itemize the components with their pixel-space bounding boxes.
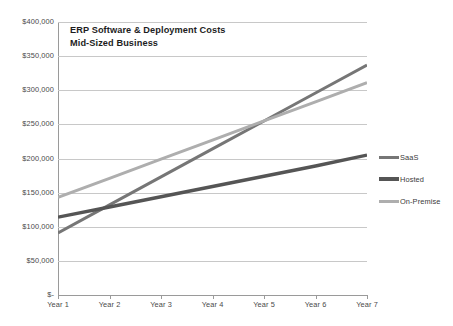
legend-item-hosted[interactable]: Hosted [379,168,453,190]
x-axis-tick [264,295,265,299]
y-axis-tick-label: $250,000 [0,119,54,128]
x-axis-tick-label: Year 2 [99,300,121,309]
y-axis-tick-label: $400,000 [0,17,54,26]
y-axis-tick-label: $50,000 [0,256,54,265]
chart-title: ERP Software & Deployment Costs Mid-Size… [70,24,226,50]
series-line-hosted [58,155,367,217]
legend-item-on-premise[interactable]: On-Premise [379,190,453,212]
x-axis-tick [213,295,214,299]
x-axis-tick [367,295,368,299]
x-axis-tick-label: Year 1 [47,300,69,309]
y-axis-tick-label: $350,000 [0,51,54,60]
x-axis-tick [316,295,317,299]
chart-title-line1: ERP Software & Deployment Costs [70,24,226,37]
chart-title-line2: Mid-Sized Business [70,37,226,50]
y-axis-tick-label: $150,000 [0,188,54,197]
legend-swatch-icon [379,200,399,203]
chart-container: $400,000$350,000$300,000$250,000$200,000… [0,0,453,326]
plot-area [58,22,367,295]
y-axis-tick-label: $100,000 [0,222,54,231]
y-axis-tick-label: $300,000 [0,85,54,94]
x-axis-tick [110,295,111,299]
x-axis-labels: Year 1Year 2Year 3Year 4Year 5Year 6Year… [58,300,367,316]
x-axis-tick-label: Year 3 [150,300,172,309]
legend-label: Hosted [399,175,424,184]
chart-legend: SaaSHostedOn-Premise [379,146,453,212]
legend-swatch-icon [379,156,399,159]
legend-label: On-Premise [399,197,440,206]
series-lines [58,22,367,295]
legend-swatch-icon [379,177,399,180]
x-axis-tick [161,295,162,299]
legend-label: SaaS [399,153,418,162]
x-axis-tick-label: Year 6 [305,300,327,309]
y-axis-tick-label: $200,000 [0,154,54,163]
x-axis-tick-label: Year 7 [356,300,378,309]
x-axis-tick [58,295,59,299]
legend-item-saas[interactable]: SaaS [379,146,453,168]
x-axis-tick-label: Year 5 [253,300,275,309]
x-axis-tick-label: Year 4 [202,300,224,309]
y-axis-labels: $400,000$350,000$300,000$250,000$200,000… [0,0,54,326]
y-axis-tick-label: $- [0,290,54,299]
series-line-on-premise [58,83,367,198]
